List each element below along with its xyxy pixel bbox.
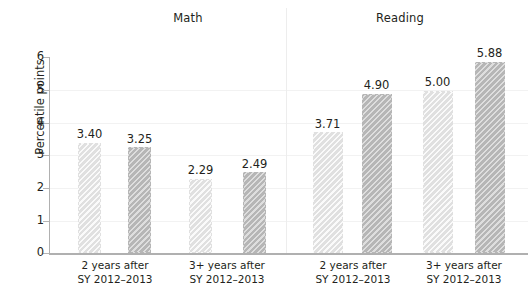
panel-title-math: Math	[118, 11, 258, 25]
bar-value-reading-2yr-dark: 4.90	[355, 78, 398, 92]
gridline-3	[50, 155, 528, 156]
bar-math-3yr-dark[interactable]	[243, 172, 266, 253]
bar-reading-3yr-dark[interactable]	[475, 62, 505, 253]
bar-value-reading-3yr-light: 5.00	[416, 75, 459, 89]
bar-math-3yr-light[interactable]	[189, 179, 212, 253]
category-label-reading-3yr: 3+ years after SY 2012–2013	[414, 259, 514, 286]
category-label-reading-2yr: 2 years after SY 2012–2013	[303, 259, 403, 286]
category-label-line1: 3+ years after	[414, 259, 514, 273]
category-label-line1: 2 years after	[65, 259, 165, 273]
bar-value-math-2yr-light: 3.40	[68, 127, 111, 141]
category-label-math-3yr: 3+ years after SY 2012–2013	[177, 259, 277, 286]
category-label-math-2yr: 2 years after SY 2012–2013	[65, 259, 165, 286]
category-label-line1: 3+ years after	[177, 259, 277, 273]
category-label-line2: SY 2012–2013	[65, 273, 165, 287]
bar-reading-2yr-dark[interactable]	[362, 94, 392, 253]
panel-divider	[286, 8, 287, 254]
y-tick-label-3: 3	[4, 149, 44, 161]
y-tick-label-0: 0	[4, 247, 44, 259]
y-tick-label-1: 1	[4, 215, 44, 227]
bar-chart-figure: Math Reading Percentile points 6 5 4 3 2…	[0, 0, 528, 304]
bar-math-2yr-light[interactable]	[78, 143, 101, 254]
y-tick-label-6: 6	[4, 51, 44, 63]
bar-value-reading-2yr-light: 3.71	[306, 117, 349, 131]
cutoff-caption-sliver	[0, 296, 528, 304]
bar-reading-2yr-light[interactable]	[313, 132, 343, 253]
y-tick-label-2: 2	[4, 182, 44, 194]
category-label-line2: SY 2012–2013	[177, 273, 277, 287]
y-tick-label-4: 4	[4, 117, 44, 129]
bar-value-math-3yr-light: 2.29	[179, 163, 222, 177]
gridline-5	[50, 90, 528, 91]
bar-value-math-2yr-dark: 3.25	[118, 132, 161, 146]
gridline-2	[50, 188, 528, 189]
bar-math-2yr-dark[interactable]	[128, 147, 151, 253]
x-axis-baseline	[49, 253, 528, 255]
category-label-line2: SY 2012–2013	[303, 273, 403, 287]
gridline-1	[50, 221, 528, 222]
bar-value-reading-3yr-dark: 5.88	[468, 46, 511, 60]
gridline-4	[50, 123, 528, 124]
bar-reading-3yr-light[interactable]	[423, 91, 453, 254]
bar-value-math-3yr-dark: 2.49	[233, 157, 276, 171]
y-axis-line	[49, 57, 50, 254]
category-label-line2: SY 2012–2013	[414, 273, 514, 287]
category-label-line1: 2 years after	[303, 259, 403, 273]
panel-title-reading: Reading	[330, 11, 470, 25]
y-tick-label-5: 5	[4, 84, 44, 96]
